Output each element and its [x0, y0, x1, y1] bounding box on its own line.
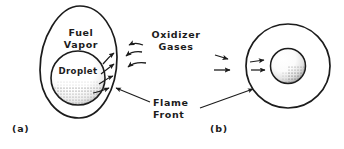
- figure-root: Fuel Vapor Droplet Oxidizer Gases Flame …: [0, 0, 344, 149]
- oxidizer-gases-label: Oxidizer Gases: [143, 29, 209, 52]
- panel-b-group: [200, 24, 330, 108]
- fuel-vapor-label: Fuel Vapor: [52, 27, 110, 50]
- oxidizer-arrows-b: [214, 55, 230, 70]
- panel-a-group: [40, 6, 150, 118]
- flame-front-leader-b: [200, 89, 253, 108]
- panel-tag-a: (a): [12, 123, 30, 134]
- droplet-label: Droplet: [49, 66, 107, 78]
- panel-tag-b: (b): [210, 123, 228, 134]
- flame-front-leader-a: [116, 88, 150, 102]
- flame-front-label: Flame Front: [153, 97, 201, 120]
